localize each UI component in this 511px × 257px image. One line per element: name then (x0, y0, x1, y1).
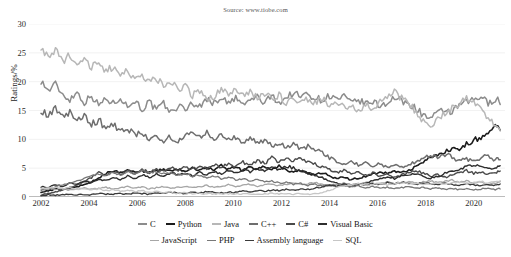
legend-item-visual-basic[interactable]: Visual Basic (318, 220, 373, 230)
series-canvas (29, 24, 505, 197)
legend-label: Visual Basic (330, 220, 373, 230)
legend-line-swatch (150, 240, 159, 241)
series-line (41, 48, 500, 131)
x-tick-label: 2014 (321, 199, 338, 208)
legend-label: Java (224, 220, 239, 230)
x-tick-label: 2016 (369, 199, 386, 208)
legend-row-primary: CPythonJavaC++C#Visual Basic (0, 220, 511, 230)
legend-item-java[interactable]: Java (212, 220, 239, 230)
legend-label: C# (298, 220, 308, 230)
legend-line-swatch (318, 223, 327, 225)
legend-row-secondary: JavaScriptPHPAssembly languageSQL (0, 236, 511, 246)
y-axis: 051015202530 (0, 24, 26, 197)
x-tick-label: 2020 (465, 199, 482, 208)
y-tick-label: 20 (0, 77, 26, 86)
x-tick-label: 2006 (129, 199, 146, 208)
legend-label: PHP (219, 236, 235, 246)
legend-item-assembly-language[interactable]: Assembly language (245, 236, 324, 246)
x-tick-label: 2012 (273, 199, 290, 208)
y-tick-label: 5 (0, 164, 26, 173)
legend-item-javascript[interactable]: JavaScript (150, 236, 197, 246)
y-tick-label: 10 (0, 135, 26, 144)
legend-item-c-[interactable]: C# (286, 220, 308, 230)
legend-label: C++ (261, 220, 276, 230)
legend-label: C (150, 220, 156, 230)
legend-item-php[interactable]: PHP (207, 236, 235, 246)
legend-label: SQL (345, 236, 361, 246)
legend-line-swatch (333, 240, 342, 241)
legend-item-c[interactable]: C (138, 220, 156, 230)
y-tick-label: 0 (0, 193, 26, 202)
x-axis: 2002200420062008201020122014201620182020 (29, 199, 505, 213)
x-tick-label: 2018 (417, 199, 434, 208)
legend-label: JavaScript (162, 236, 197, 246)
legend-label: Python (178, 220, 202, 230)
legend-line-swatch (207, 240, 216, 241)
legend-item-c-[interactable]: C++ (249, 220, 276, 230)
y-tick-label: 25 (0, 49, 26, 58)
legend-line-swatch (212, 223, 221, 225)
legend-line-swatch (286, 223, 295, 225)
legend-line-swatch (245, 240, 254, 241)
chart-source-note: Source: www.tiobe.com (0, 6, 511, 13)
x-tick-label: 2004 (81, 199, 98, 208)
legend-line-swatch (166, 223, 175, 225)
legend-label: Assembly language (257, 236, 324, 246)
y-tick-label: 15 (0, 106, 26, 115)
legend-item-python[interactable]: Python (166, 220, 202, 230)
x-tick-label: 2008 (177, 199, 194, 208)
series-line (41, 81, 500, 118)
legend-line-swatch (138, 223, 147, 225)
x-tick-label: 2010 (225, 199, 242, 208)
plot-area (29, 24, 505, 197)
legend-line-swatch (249, 223, 258, 225)
legend-item-sql[interactable]: SQL (333, 236, 361, 246)
chart-container: TIOBE Programming Community Index Source… (0, 0, 511, 257)
y-tick-label: 30 (0, 20, 26, 29)
x-tick-label: 2002 (33, 199, 50, 208)
